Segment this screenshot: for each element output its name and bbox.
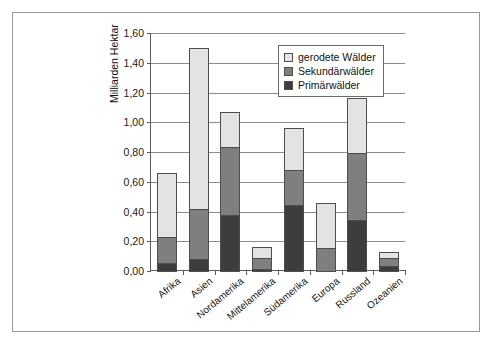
y-tick-mark bbox=[147, 212, 151, 213]
legend-item: Sekundärwälder bbox=[284, 64, 376, 78]
legend-item: Primärwälder bbox=[284, 78, 376, 92]
bar-segment bbox=[189, 259, 209, 272]
y-tick-mark bbox=[147, 93, 151, 94]
bar-mittelamerika bbox=[252, 247, 272, 271]
y-tick-label: 0,80 bbox=[124, 147, 144, 158]
bar-segment bbox=[252, 269, 272, 272]
bar-segment bbox=[316, 203, 336, 249]
bar-nordamerika bbox=[220, 112, 240, 271]
bar-segment bbox=[347, 153, 367, 221]
y-tick-label: 1,40 bbox=[124, 58, 144, 69]
legend-item: gerodete Wälder bbox=[284, 50, 376, 64]
y-tick-label: 1,20 bbox=[124, 87, 144, 98]
bar-segment bbox=[220, 215, 240, 272]
y-tick-mark bbox=[147, 271, 151, 272]
legend-label: Sekundärwälder bbox=[298, 66, 374, 77]
bar-segment bbox=[284, 205, 304, 272]
bar-segment bbox=[157, 237, 177, 264]
x-tick-mark bbox=[278, 271, 279, 275]
y-tick-label: 0,40 bbox=[124, 206, 144, 217]
y-tick-label: 0,20 bbox=[124, 236, 144, 247]
x-tick-mark bbox=[183, 271, 184, 275]
y-tick-label: 1,60 bbox=[124, 28, 144, 39]
bar-afrika bbox=[157, 173, 177, 271]
bar-russland bbox=[347, 98, 367, 271]
legend-swatch-icon bbox=[284, 53, 293, 62]
legend-label: gerodete Wälder bbox=[298, 52, 376, 63]
bar-asien bbox=[189, 48, 209, 271]
bar-segment bbox=[189, 209, 209, 260]
x-tick-mark bbox=[405, 271, 406, 275]
legend-swatch-icon bbox=[284, 67, 293, 76]
legend-swatch-icon bbox=[284, 81, 293, 90]
x-tick-mark bbox=[215, 271, 216, 275]
y-axis-title: Milliarden Hektar bbox=[109, 24, 120, 103]
chart-frame: Milliarden Hektar 0,000,200,400,600,801,… bbox=[12, 12, 480, 332]
bar-segment bbox=[379, 266, 399, 272]
x-tick-label: Asien bbox=[188, 276, 214, 300]
bar-segment bbox=[220, 112, 240, 148]
y-tick-mark bbox=[147, 152, 151, 153]
y-tick-mark bbox=[147, 63, 151, 64]
bar-segment bbox=[157, 263, 177, 272]
bar-segment bbox=[347, 220, 367, 272]
x-tick-mark bbox=[310, 271, 311, 275]
y-tick-mark bbox=[147, 182, 151, 183]
bar-segment bbox=[157, 173, 177, 238]
legend-label: Primärwälder bbox=[298, 80, 360, 91]
bar-segment bbox=[284, 170, 304, 206]
bar-segment bbox=[220, 147, 240, 217]
gridline bbox=[151, 33, 405, 34]
bar-segment bbox=[316, 248, 336, 272]
bar-ozeanien bbox=[379, 252, 399, 271]
x-tick-mark bbox=[246, 271, 247, 275]
x-tick-mark bbox=[373, 271, 374, 275]
y-tick-mark bbox=[147, 241, 151, 242]
y-tick-label: 1,00 bbox=[124, 117, 144, 128]
y-tick-label: 0,00 bbox=[124, 266, 144, 277]
bar-südamerika bbox=[284, 128, 304, 271]
y-tick-mark bbox=[147, 122, 151, 123]
y-tick-mark bbox=[147, 33, 151, 34]
x-tick-label: Afrika bbox=[156, 276, 182, 300]
chart-legend: gerodete WälderSekundärwälderPrimärwälde… bbox=[278, 45, 384, 97]
bar-segment bbox=[284, 128, 304, 171]
bar-europa bbox=[316, 203, 336, 271]
x-tick-mark bbox=[342, 271, 343, 275]
y-tick-label: 0,60 bbox=[124, 177, 144, 188]
bar-segment bbox=[189, 48, 209, 210]
bar-segment bbox=[347, 98, 367, 153]
